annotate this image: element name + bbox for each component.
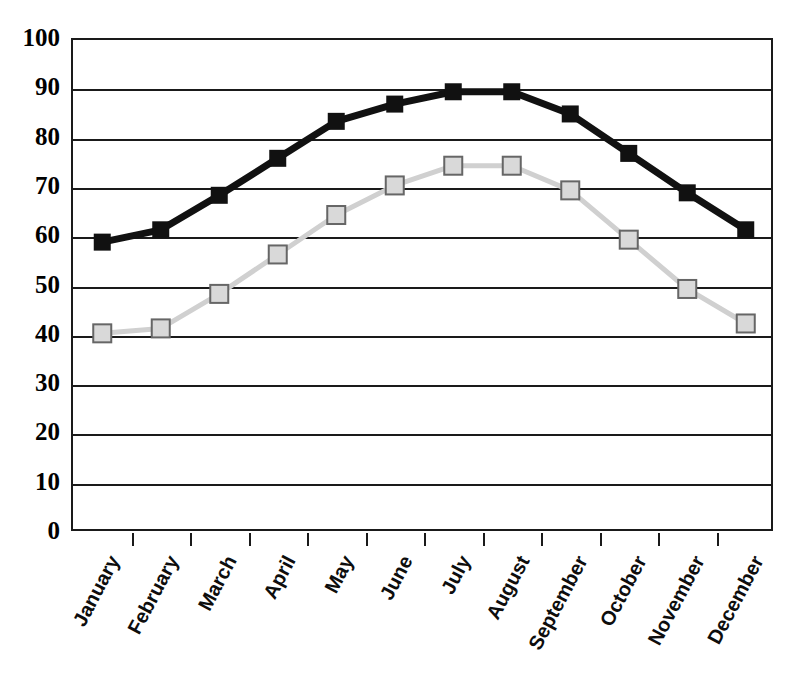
line-chart: 1009080706050403020100 JanuaryFebruaryMa… xyxy=(0,0,794,687)
x-axis-labels: JanuaryFebruaryMarchAprilMayJuneJulyAugu… xyxy=(0,0,794,687)
